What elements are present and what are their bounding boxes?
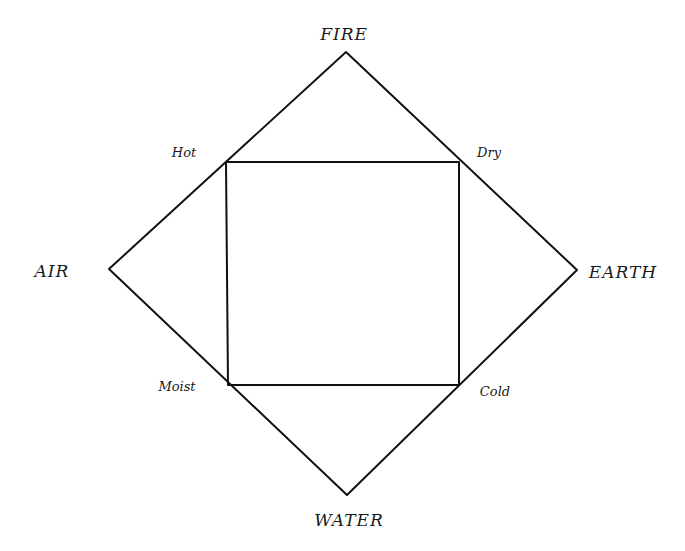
label-fire: FIRE xyxy=(319,24,368,44)
label-hot: Hot xyxy=(171,145,197,160)
label-moist: Moist xyxy=(157,379,196,394)
elements-diamond xyxy=(109,52,577,495)
qualities-square xyxy=(226,162,459,385)
label-earth: EARTH xyxy=(588,262,658,282)
label-cold: Cold xyxy=(480,384,510,399)
label-air: AIR xyxy=(33,261,70,281)
label-dry: Dry xyxy=(476,145,502,160)
label-water: WATER xyxy=(314,510,384,530)
four-elements-diagram: FIRE AIR EARTH WATER Hot Dry Moist Cold xyxy=(0,0,685,551)
